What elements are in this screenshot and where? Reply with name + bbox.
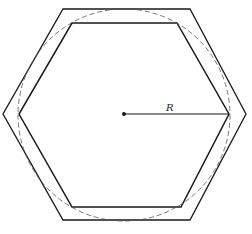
diagram-svg: R	[0, 0, 252, 234]
radius-label: R	[165, 102, 174, 113]
hexagon-diagram: R	[0, 0, 252, 234]
